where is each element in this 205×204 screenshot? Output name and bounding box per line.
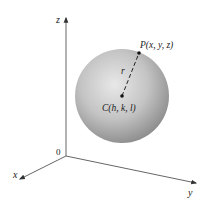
z-axis-label: z [55, 14, 60, 25]
point-c [120, 94, 124, 98]
point-c-label: C(h, k, l) [102, 103, 136, 114]
sphere-diagram: z x y 0 P(x, y, z) C(h, k, l) r [0, 0, 205, 204]
radius-label: r [121, 66, 125, 76]
x-axis [20, 156, 66, 179]
point-p [137, 51, 141, 55]
y-axis [66, 156, 196, 183]
x-axis-label: x [12, 169, 18, 180]
origin-label: 0 [56, 147, 61, 157]
y-axis-label: y [187, 187, 193, 198]
point-p-label: P(x, y, z) [139, 40, 173, 51]
